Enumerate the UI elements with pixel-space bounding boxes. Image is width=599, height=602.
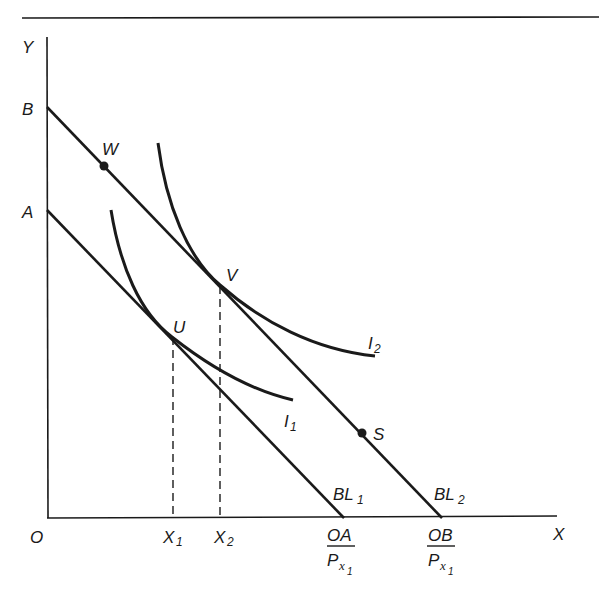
svg-text:P: P (428, 551, 440, 570)
svg-text:P: P (327, 551, 339, 570)
indifference-curve-2 (158, 143, 375, 356)
top-rule (22, 17, 599, 18)
svg-text:2: 2 (457, 493, 465, 507)
indifference-curve-diagram: Y X O B A W S V U I 2 I 1 BL 1 BL 2 X 1 … (0, 0, 599, 602)
svg-text:X: X (162, 528, 175, 547)
svg-text:x: x (338, 558, 345, 573)
bl2-label: BL 2 (434, 485, 465, 507)
svg-text:I: I (284, 412, 289, 431)
i2-label: I 2 (368, 334, 381, 356)
bl1-x-intercept-fraction: OA P x 1 (327, 526, 355, 577)
svg-text:I: I (368, 334, 373, 353)
y-axis-label: Y (22, 38, 35, 57)
svg-text:X: X (213, 528, 226, 547)
svg-text:1: 1 (176, 535, 183, 549)
origin-label: O (30, 528, 43, 547)
point-v-label: V (226, 266, 239, 285)
point-w-label: W (102, 140, 120, 159)
svg-text:1: 1 (290, 420, 297, 434)
svg-text:2: 2 (226, 535, 234, 549)
x2-label: X 2 (213, 528, 234, 549)
bl2-x-intercept-fraction: OB P x 1 (427, 526, 455, 577)
svg-text:1: 1 (347, 566, 353, 577)
svg-text:BL: BL (333, 485, 354, 504)
svg-text:BL: BL (434, 485, 455, 504)
svg-text:OB: OB (428, 526, 453, 545)
intercept-b-label: B (22, 100, 33, 119)
bl1-label: BL 1 (333, 485, 364, 507)
svg-text:1: 1 (357, 493, 364, 507)
svg-text:OA: OA (327, 526, 352, 545)
point-s-dot (358, 429, 367, 438)
x1-label: X 1 (162, 528, 183, 549)
point-s-label: S (373, 425, 385, 444)
x-axis (47, 516, 557, 518)
intercept-a-label: A (21, 203, 33, 222)
svg-text:1: 1 (448, 566, 454, 577)
i1-label: I 1 (284, 412, 297, 434)
x-axis-label: X (552, 525, 565, 544)
point-u-label: U (173, 318, 186, 337)
svg-text:x: x (439, 558, 446, 573)
svg-text:2: 2 (373, 342, 381, 356)
point-w-dot (100, 162, 109, 171)
